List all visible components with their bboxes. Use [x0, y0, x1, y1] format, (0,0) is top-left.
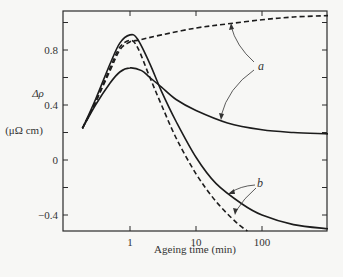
axis-ticks: [63, 11, 327, 231]
arrowhead-icon: [228, 189, 235, 194]
curve-a-solid: [82, 68, 328, 134]
arrow-a-to-dashed: [231, 26, 254, 62]
x-tick-label: 1: [127, 236, 133, 248]
y-tick-label: −0.4: [38, 209, 58, 221]
y-tick-label: 0.8: [44, 44, 58, 56]
y-axis-unit: (μΩ cm): [5, 124, 43, 137]
chart: 1101000.80.40−0.4 Ageing time (min) Δρ (…: [0, 0, 343, 277]
annotation-a: [219, 23, 254, 120]
arrowhead-icon: [219, 113, 224, 120]
x-axis-title: Ageing time (min): [154, 243, 236, 256]
y-tick-label: 0: [53, 154, 59, 166]
y-tick-label: 0.4: [44, 99, 58, 111]
label-b: b: [257, 176, 263, 190]
label-a: a: [258, 59, 264, 73]
arrowhead-icon: [233, 208, 238, 215]
arrow-a-to-solid: [221, 70, 254, 116]
curves: [82, 16, 328, 231]
arrow-b-to-dashed: [236, 188, 256, 211]
y-axis-title: Δρ: [31, 87, 44, 99]
x-tick-label: 100: [254, 236, 271, 248]
plot-frame: [63, 11, 327, 231]
